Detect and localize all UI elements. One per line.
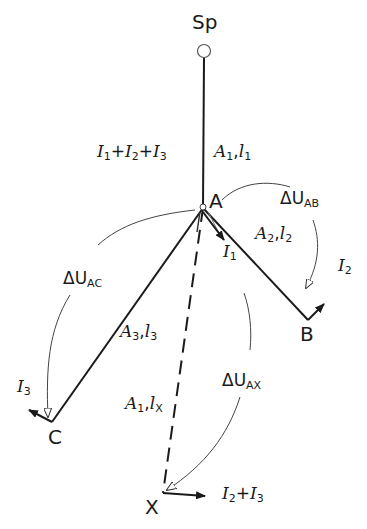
current-i2-label: I2 xyxy=(338,257,352,276)
node-b-label: B xyxy=(300,324,314,344)
line-a-c xyxy=(52,208,203,422)
line-a-x xyxy=(163,208,203,493)
current-i1-label: I1 xyxy=(223,243,237,262)
line-a-x-label: A1,lX xyxy=(125,395,163,414)
node-x-label: X xyxy=(145,497,159,517)
du-ax-arc-icon xyxy=(244,293,251,350)
du-ax-label: ΔUAX xyxy=(222,372,261,391)
source-label: Sp xyxy=(192,12,217,32)
feed-current-label: I1+I2+I3 xyxy=(97,143,167,162)
node-c-label: C xyxy=(48,427,62,447)
du-ab-label: ΔUAB xyxy=(280,190,319,209)
current-i2-arrow-icon xyxy=(308,304,324,320)
du-ax-arrow-icon xyxy=(167,397,240,490)
du-ab-arrow-icon xyxy=(306,220,318,288)
source-node-icon xyxy=(198,45,211,58)
line-a-c-label: A3,l3 xyxy=(120,323,157,342)
node-a-label: A xyxy=(209,191,223,211)
circuit-diagram xyxy=(0,0,367,529)
du-ac-label: ΔUAC xyxy=(63,270,102,289)
current-i3-arrow-icon xyxy=(29,410,52,422)
current-x-arrow-icon xyxy=(163,493,205,496)
current-i3-label: I3 xyxy=(17,378,31,397)
line-a-b-label: A2,l2 xyxy=(255,225,292,244)
node-a-icon xyxy=(200,204,206,210)
du-ac-arrow-icon xyxy=(47,295,70,417)
current-x-label: I2+I3 xyxy=(222,485,264,504)
line-sp-a-label: A1,l1 xyxy=(214,143,251,162)
line-sp-a xyxy=(203,58,204,206)
